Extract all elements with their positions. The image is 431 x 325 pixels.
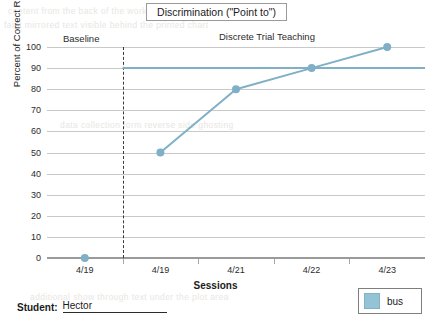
x-tick-label: 4/19	[152, 265, 170, 275]
y-tick-label: 90	[13, 63, 41, 73]
student-label: Student:	[17, 302, 58, 313]
plot-area: 0102030405060708090100 4/194/194/214/224…	[47, 47, 425, 258]
y-tick-label: 40	[13, 169, 41, 179]
y-tick-label: 20	[13, 211, 41, 221]
y-tick-label: 0	[13, 253, 41, 263]
x-tick-mark	[123, 259, 124, 264]
y-tick-label: 50	[13, 148, 41, 158]
data-point	[308, 64, 316, 72]
x-tick-label: 4/23	[378, 265, 396, 275]
y-tick-label: 30	[13, 190, 41, 200]
x-tick-label: 4/19	[76, 265, 94, 275]
chart-title: Discrimination ("Point to")	[157, 6, 276, 18]
student-name-value: Hector	[63, 300, 167, 313]
student-field: Student: Hector	[17, 300, 167, 313]
data-point	[383, 43, 391, 51]
phase-label-baseline: Baseline	[63, 33, 99, 44]
x-tick-mark	[349, 259, 350, 264]
data-series-overlay	[47, 47, 425, 258]
phase-label-discrete-trial-teaching: Discrete Trial Teaching	[219, 31, 315, 42]
x-tick-label: 4/22	[303, 265, 321, 275]
legend-label-bus: bus	[387, 296, 403, 307]
data-point	[232, 85, 240, 93]
data-line-bus	[160, 47, 387, 153]
y-tick-label: 80	[13, 84, 41, 94]
bus-color-swatch	[364, 293, 380, 309]
x-tick-label: 4/21	[227, 265, 245, 275]
y-tick-label: 10	[13, 232, 41, 242]
y-tick-label: 100	[13, 42, 41, 52]
x-tick-mark	[198, 259, 199, 264]
chart-title-box: Discrimination ("Point to")	[146, 3, 287, 21]
chart-legend: bus	[358, 288, 422, 314]
y-tick-label: 70	[13, 105, 41, 115]
x-tick-mark	[274, 259, 275, 264]
bleed-through-text: faint mirrored text visible behind the p…	[4, 20, 209, 30]
y-tick-label: 60	[13, 126, 41, 136]
data-point	[156, 149, 164, 157]
data-point	[81, 254, 89, 262]
chart-page: content from the back of the worksheet s…	[0, 0, 431, 325]
